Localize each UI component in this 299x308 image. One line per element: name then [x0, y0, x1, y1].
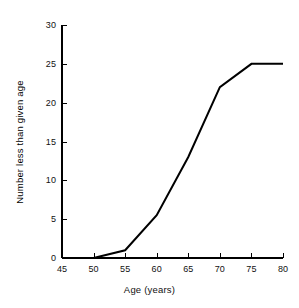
x-tick-label: 60 [152, 265, 162, 274]
y-tick-label: 25 [36, 59, 56, 68]
x-tick-label: 45 [57, 265, 67, 274]
x-tick-label: 50 [88, 265, 98, 274]
y-tick-label: 15 [36, 137, 56, 146]
data-series-line [62, 64, 283, 258]
y-axis-title-text: Number less than given age [12, 26, 28, 258]
y-tick-label: 30 [36, 21, 56, 30]
y-tick-label: 0 [36, 254, 56, 263]
axis-spines [62, 25, 283, 258]
chart-figure: 051015202530 4550556065707580 Age (years… [0, 0, 299, 308]
y-tick-label: 5 [36, 215, 56, 224]
y-axis-title: Number less than given age [12, 26, 28, 258]
x-tick-label: 80 [278, 265, 288, 274]
y-tick-label: 20 [36, 98, 56, 107]
x-tick-label: 65 [183, 265, 193, 274]
x-tick-label: 75 [246, 265, 256, 274]
x-tick-label: 70 [215, 265, 225, 274]
x-tick-label: 55 [120, 265, 130, 274]
x-axis-title: Age (years) [0, 284, 299, 295]
y-tick-label: 10 [36, 176, 56, 185]
